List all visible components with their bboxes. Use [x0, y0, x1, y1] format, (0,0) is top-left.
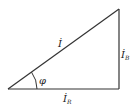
horizontal-label: İR	[62, 93, 72, 105]
angle-arc	[32, 72, 38, 89]
horizontal-label-sub: R	[66, 98, 72, 105]
phasor-triangle-diagram: İ İB İR φ	[0, 0, 134, 112]
hypotenuse-side	[8, 9, 119, 89]
hypotenuse-label: İ	[57, 38, 63, 49]
vertical-label-sub: B	[124, 54, 130, 61]
angle-label: φ	[39, 75, 46, 86]
vertical-label: İB	[120, 49, 130, 61]
